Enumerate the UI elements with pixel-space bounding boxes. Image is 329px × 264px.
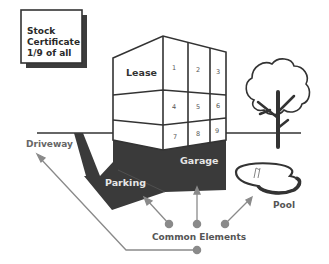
unit-8: 8 [196, 130, 200, 138]
parking-label: Parking [105, 177, 146, 188]
dot-parking [165, 220, 172, 227]
unit-4: 4 [172, 103, 176, 111]
arrowhead-driveway [37, 154, 45, 162]
certificate-line-2: Certificate [27, 37, 80, 47]
condo-ownership-diagram: Stock Certificate 1/9 of all Lease 1 2 3… [0, 0, 329, 264]
unit-5: 5 [196, 103, 200, 111]
common-elements-label: Common Elements [152, 232, 246, 242]
unit-3: 3 [216, 68, 220, 76]
stock-certificate: Stock Certificate 1/9 of all [21, 10, 87, 68]
certificate-line-1: Stock [27, 26, 56, 36]
driveway-ramp [74, 133, 100, 176]
dot-driveway [193, 246, 200, 253]
pool-label: Pool [273, 200, 295, 210]
driveway-label: Driveway [26, 139, 73, 149]
unit-9: 9 [215, 127, 219, 135]
dot-garage [193, 220, 200, 227]
lease-label: Lease [126, 67, 157, 78]
pool-icon [236, 163, 300, 193]
pointer-parking [147, 200, 169, 224]
arrowhead-pool [246, 197, 252, 205]
unit-7: 7 [173, 133, 177, 141]
garage-label: Garage [180, 155, 219, 166]
pointer-pool [225, 200, 249, 224]
unit-2: 2 [196, 66, 200, 74]
building [113, 36, 226, 150]
certificate-line-3: 1/9 of all [27, 48, 71, 58]
unit-1: 1 [172, 64, 176, 72]
unit-6: 6 [216, 102, 220, 110]
dot-pool [221, 220, 228, 227]
